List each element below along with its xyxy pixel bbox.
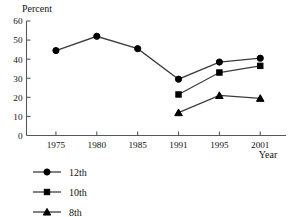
legend-marker-circle-icon [44, 169, 50, 175]
x-axis-tick-labels: 197519801985199119952001 [47, 140, 270, 150]
legend-item-8th[interactable]: 8th [33, 207, 82, 217]
x-tick-label: 1995 [210, 140, 229, 150]
legend-label: 8th [69, 207, 82, 217]
x-tick-label: 1980 [88, 140, 107, 150]
x-tick-label: 1975 [47, 140, 66, 150]
chart-legend: 12th10th8th [33, 167, 87, 217]
legend-item-10th[interactable]: 10th [33, 187, 87, 198]
data-point-12th-1991 [175, 76, 181, 82]
data-point-12th-1975 [53, 47, 59, 53]
line-chart: Percent 6050403020100 197519801985199119… [0, 0, 291, 217]
data-point-8th-1991 [175, 109, 183, 116]
y-axis-ticks [27, 21, 31, 116]
chart-container: Percent 6050403020100 197519801985199119… [0, 0, 291, 217]
data-point-10th-2001 [258, 63, 263, 68]
y-axis-title: Percent [22, 3, 52, 14]
y-tick-label: 10 [13, 112, 23, 122]
y-tick-label: 40 [13, 55, 23, 65]
legend-label: 12th [69, 167, 87, 178]
x-axis-ticks [56, 132, 260, 136]
series-line-12th [56, 36, 260, 79]
series-layer [53, 33, 264, 115]
y-tick-label: 0 [18, 131, 23, 141]
data-point-12th-1980 [94, 33, 100, 39]
y-axis-tick-labels: 6050403020100 [13, 16, 23, 140]
series-12th [53, 33, 264, 82]
data-point-12th-1995 [216, 59, 222, 65]
legend-item-12th[interactable]: 12th [33, 167, 87, 178]
series-8th [175, 92, 264, 116]
data-point-12th-2001 [257, 55, 263, 61]
data-point-10th-1991 [176, 92, 181, 97]
y-tick-label: 20 [13, 93, 23, 103]
x-tick-label: 1991 [169, 140, 188, 150]
legend-marker-square-icon [44, 189, 49, 194]
data-point-10th-1995 [217, 70, 222, 75]
x-axis-title: Year [259, 149, 278, 160]
data-point-12th-1985 [135, 46, 141, 52]
x-tick-label: 2001 [251, 140, 270, 150]
x-tick-label: 1985 [128, 140, 147, 150]
legend-label: 10th [69, 187, 87, 198]
y-tick-label: 50 [13, 35, 23, 45]
y-tick-label: 60 [13, 16, 23, 26]
y-tick-label: 30 [13, 74, 23, 84]
